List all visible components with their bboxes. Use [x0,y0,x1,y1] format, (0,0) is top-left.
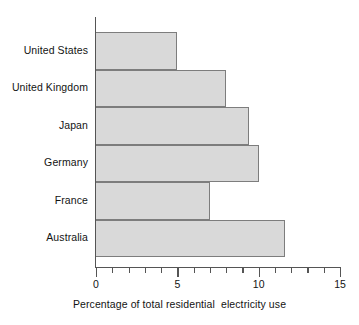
x-tick-label: 10 [253,278,265,290]
bar-france [96,182,210,220]
category-label-united-states: United States [0,44,88,56]
x-tick-major [177,268,178,277]
x-axis-title: Percentage of total residential electric… [0,298,359,310]
x-axis-line [95,267,341,268]
bar-row [96,107,340,145]
x-tick-label: 0 [93,278,99,290]
x-tick-minor [129,268,130,273]
x-tick-minor [226,268,227,273]
bar-australia [96,220,285,258]
plot-area [96,32,340,257]
x-tick-minor [242,268,243,273]
category-label-germany: Germany [0,156,88,168]
bar-row [96,182,340,220]
bar-chart-figure: United StatesUnited KingdomJapanGermanyF… [0,0,359,325]
x-tick-minor [145,268,146,273]
bar-row [96,32,340,70]
category-label-japan: Japan [0,119,88,131]
x-tick-minor [291,268,292,273]
x-tick-label: 5 [174,278,180,290]
x-tick-minor [324,268,325,273]
bar-united-states [96,32,177,70]
bar-germany [96,145,259,183]
bar-row [96,70,340,108]
category-label-united-kingdom: United Kingdom [0,81,88,93]
x-tick-major [340,268,341,277]
x-tick-major [96,268,97,277]
bar-row [96,145,340,183]
x-tick-major [259,268,260,277]
bar-japan [96,107,249,145]
x-tick-minor [112,268,113,273]
x-tick-label: 15 [334,278,346,290]
x-tick-minor [194,268,195,273]
category-label-france: France [0,194,88,206]
bar-united-kingdom [96,70,226,108]
x-tick-minor [161,268,162,273]
x-tick-minor [307,268,308,273]
category-label-australia: Australia [0,231,88,243]
x-tick-minor [275,268,276,273]
bar-row [96,220,340,258]
x-tick-minor [210,268,211,273]
